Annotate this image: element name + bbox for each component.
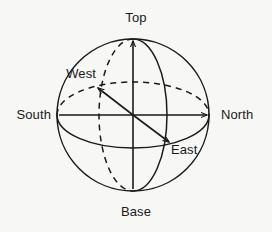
label-base: Base	[121, 205, 151, 219]
label-south: South	[17, 108, 51, 122]
label-north: North	[221, 108, 253, 122]
diagram-canvas: Top Base North South West East	[0, 0, 272, 232]
axis-line-west	[98, 88, 133, 115]
axis-line-east	[133, 115, 169, 142]
label-west: West	[66, 67, 96, 81]
label-top: Top	[125, 11, 146, 25]
label-east: East	[171, 143, 197, 157]
